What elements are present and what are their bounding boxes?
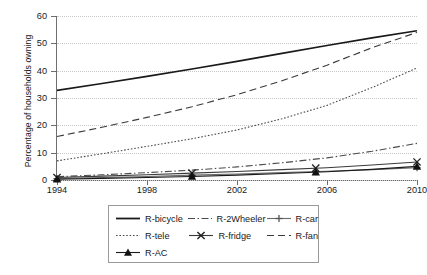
legend-swatch-r-fridge <box>188 230 214 241</box>
legend-line-sample-icon <box>188 230 214 241</box>
legend-item-r-ac[interactable]: R-AC <box>115 247 197 258</box>
legend-item-r-2wheeler[interactable]: R-2Wheeler <box>187 213 266 224</box>
legend-label: R-bicycle <box>145 214 183 224</box>
legend-body: R-bicycleR-2WheelerR-carR-teleR-fridgeR-… <box>115 210 318 261</box>
y-tick-label: 60 <box>37 11 47 21</box>
legend-swatch-r-tele <box>115 230 141 241</box>
legend-label: R-tele <box>145 231 170 241</box>
series-line <box>57 32 417 136</box>
x-tick-label: 1998 <box>137 185 157 195</box>
legend-line-sample-icon <box>187 213 213 224</box>
y-tick-label: 0 <box>42 175 47 185</box>
y-tick-label: 30 <box>37 93 47 103</box>
legend-swatch-r-ac <box>115 247 141 258</box>
legend-item-r-fan[interactable]: R-fan <box>266 230 318 241</box>
legend-label: R-AC <box>145 248 167 258</box>
legend-label: R-fridge <box>218 231 251 241</box>
y-tick-label: 20 <box>37 120 47 130</box>
series-line <box>57 31 417 91</box>
legend-label: R-car <box>296 214 318 224</box>
legend-line-sample-icon <box>266 230 292 241</box>
x-tick-label: 1994 <box>47 185 67 195</box>
legend-item-r-fridge[interactable]: R-fridge <box>188 230 265 241</box>
y-tick-label: 50 <box>37 38 47 48</box>
legend-label: R-2Wheeler <box>217 214 266 224</box>
x-tick-label: 2010 <box>407 185 427 195</box>
legend-item-r-bicycle[interactable]: R-bicycle <box>115 213 187 224</box>
legend-line-sample-icon <box>115 230 141 241</box>
legend-row: R-bicycleR-2WheelerR-car <box>115 210 318 227</box>
legend-swatch-r-fan <box>266 230 292 241</box>
plot-area <box>57 16 417 180</box>
legend-swatch-r-car <box>266 213 292 224</box>
x-tick-label: 2002 <box>227 185 247 195</box>
y-tick-label: 10 <box>37 148 47 158</box>
legend-row: R-teleR-fridgeR-fan <box>115 227 318 244</box>
gridline <box>57 180 417 181</box>
legend-line-sample-icon <box>115 247 141 258</box>
legend-swatch-r-2wheeler <box>187 213 213 224</box>
legend-item-r-car[interactable]: R-car <box>266 213 318 224</box>
series-r-fan <box>57 32 417 136</box>
legend-label: R-fan <box>296 231 318 241</box>
series-lines <box>57 16 417 180</box>
y-tick-label: 40 <box>37 66 47 76</box>
y-axis-title: Percentage of households owning <box>23 11 33 191</box>
chart-legend: R-bicycleR-2WheelerR-carR-teleR-fridgeR-… <box>108 205 319 263</box>
marker-triangle <box>413 162 421 170</box>
x-tick-label: 2006 <box>317 185 337 195</box>
legend-line-sample-icon <box>115 213 141 224</box>
series-r-bicycle <box>57 31 417 91</box>
legend-line-sample-icon <box>266 213 292 224</box>
legend-row: R-AC <box>115 244 318 261</box>
legend-item-r-tele[interactable]: R-tele <box>115 230 188 241</box>
chart-root: Percentage of households owning 01020304… <box>0 0 427 275</box>
legend-swatch-r-bicycle <box>115 213 141 224</box>
